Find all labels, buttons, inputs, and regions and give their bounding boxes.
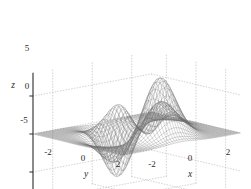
- x-tick-label-neg2: -2: [148, 160, 156, 169]
- z-tick-label-5: 5: [25, 44, 30, 53]
- y-axis-title: y: [84, 170, 88, 180]
- y-tick-label-0: 0: [81, 154, 86, 163]
- x-tick-label-2: 2: [226, 148, 231, 157]
- x-tick-label-0: 0: [188, 154, 193, 163]
- x-axis-title: x: [188, 170, 192, 180]
- z-tick-label-neg5: -5: [20, 116, 28, 125]
- y-tick-label-2: 2: [116, 160, 121, 169]
- surface-plot-figure: 5 0 -5 z -2 0 2 y -2 0 2 x: [0, 0, 251, 189]
- z-axis-title: z: [11, 81, 15, 91]
- plot-canvas: [0, 0, 251, 189]
- y-tick-label-neg2: -2: [44, 148, 52, 157]
- surface-mesh: [33, 78, 241, 177]
- z-tick-label-0: 0: [25, 82, 30, 91]
